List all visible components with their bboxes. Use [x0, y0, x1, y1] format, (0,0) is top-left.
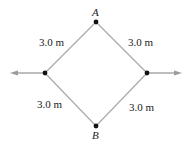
arrow-right-head-icon	[174, 71, 182, 76]
point-b-dot	[94, 124, 99, 129]
point-a-dot	[94, 20, 99, 25]
side-label-bottom-left: 3.0 m	[37, 99, 62, 110]
diamond-figure	[0, 0, 188, 147]
charge-left-dot	[43, 71, 48, 76]
edge-bottom-right	[96, 73, 147, 126]
side-label-top-left: 3.0 m	[39, 37, 64, 48]
arrow-left-head-icon	[10, 71, 18, 76]
diagram-canvas: A B 3.0 m 3.0 m 3.0 m 3.0 m	[0, 0, 188, 147]
charge-right-dot	[145, 71, 150, 76]
side-label-top-right: 3.0 m	[128, 37, 153, 48]
point-b-label: B	[92, 130, 99, 141]
side-label-bottom-right: 3.0 m	[129, 102, 154, 113]
point-a-label: A	[92, 7, 99, 18]
